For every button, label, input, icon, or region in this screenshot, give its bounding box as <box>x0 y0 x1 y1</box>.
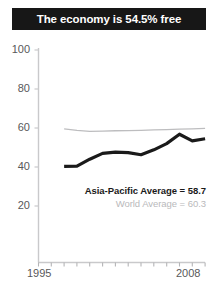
y-tick-label-60: 60 <box>0 122 30 133</box>
plot-area <box>0 0 218 299</box>
series-line-world-average <box>64 128 205 131</box>
legend-item-world: World Average = 60.3 <box>56 197 206 210</box>
y-tick-label-40: 40 <box>0 161 30 172</box>
y-tick-label-100: 100 <box>0 44 30 55</box>
chart-legend: Asia-Pacific Average = 58.7 World Averag… <box>56 184 206 210</box>
y-tick-label-20: 20 <box>0 200 30 211</box>
x-tick-label-2008: 2008 <box>176 268 200 279</box>
series-group <box>64 128 205 166</box>
legend-item-asia-pacific: Asia-Pacific Average = 58.7 <box>56 184 206 197</box>
series-line-asia-pacific-average <box>64 134 205 166</box>
economy-freedom-chart: The economy is 54.5% free <box>0 0 218 299</box>
y-tick-label-80: 80 <box>0 83 30 94</box>
x-tick-label-1995: 1995 <box>27 268 51 279</box>
